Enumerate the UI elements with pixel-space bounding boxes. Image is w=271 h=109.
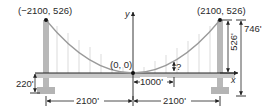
bridge-deck <box>35 73 235 78</box>
unknown-height-label: ? <box>176 61 181 72</box>
left-span-label: 2100' <box>76 95 99 106</box>
y-axis-label: y <box>124 9 130 19</box>
right-tower-top-label: (2100, 526) <box>197 5 246 16</box>
right-tower-top-point <box>218 18 222 22</box>
query-distance-label: 1000' <box>140 76 163 87</box>
deck-height-label: 220' <box>16 78 34 89</box>
left-tower <box>43 20 49 90</box>
right-span-label: 2100' <box>163 95 186 106</box>
tower-height-label: 746' <box>244 23 262 34</box>
origin-point <box>131 71 135 75</box>
suspension-bridge-diagram: y x (−2100, 526) (2100, 526) (0, 0) ? 10… <box>0 0 271 109</box>
suspender-cables <box>57 26 210 73</box>
cable-height-label: 526' <box>228 33 239 51</box>
right-tower <box>217 20 223 90</box>
x-axis-label: x <box>230 75 236 85</box>
origin-label: (0, 0) <box>110 59 132 70</box>
right-foundation <box>211 87 229 94</box>
left-tower-top-point <box>44 18 48 22</box>
left-tower-top-label: (−2100, 526) <box>18 5 72 16</box>
